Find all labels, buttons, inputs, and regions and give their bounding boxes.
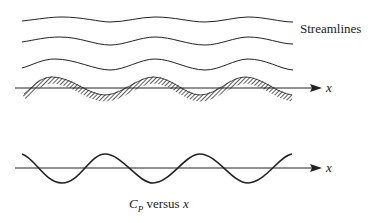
streamline-3 <box>22 59 293 70</box>
cp-versus: versus <box>143 196 183 211</box>
wavy-wall <box>24 80 292 98</box>
cp-x: x <box>183 196 189 211</box>
streamlines-label: Streamlines <box>300 21 361 37</box>
streamlines <box>22 17 293 70</box>
x-axis-label-top: x <box>326 80 332 96</box>
cp-caption: CP versus x <box>129 196 189 214</box>
cp-letter: C <box>129 196 138 211</box>
x-axis-label-bottom: x <box>326 160 332 176</box>
streamline-2 <box>22 37 293 45</box>
streamline-1 <box>22 17 293 22</box>
